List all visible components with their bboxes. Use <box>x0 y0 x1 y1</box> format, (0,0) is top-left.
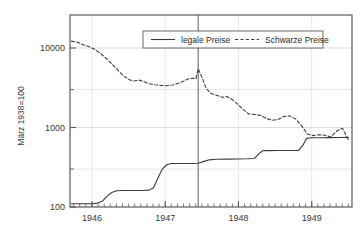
x-tick-label: 1947 <box>155 213 175 223</box>
x-tick-label: 1946 <box>82 213 102 223</box>
y-tick-label: 1000 <box>45 123 65 133</box>
chart-container: 1946194719481949 100100010000 März 1938=… <box>0 0 364 230</box>
y-axis-title-text: März 1938=100 <box>16 86 26 146</box>
price-index-line-chart: 1946194719481949 100100010000 März 1938=… <box>0 0 364 230</box>
chart-legend: legale PreiseSchwarze Preise <box>143 31 329 48</box>
legend-label-1: legale Preise <box>181 35 230 45</box>
y-tick-label: 100 <box>50 202 65 212</box>
x-tick-label: 1949 <box>302 213 322 223</box>
x-tick-label: 1948 <box>228 213 248 223</box>
y-tick-label: 10000 <box>40 43 65 53</box>
y-axis-title: März 1938=100 <box>16 86 26 146</box>
legend-label-2: Schwarze Preise <box>265 35 329 45</box>
